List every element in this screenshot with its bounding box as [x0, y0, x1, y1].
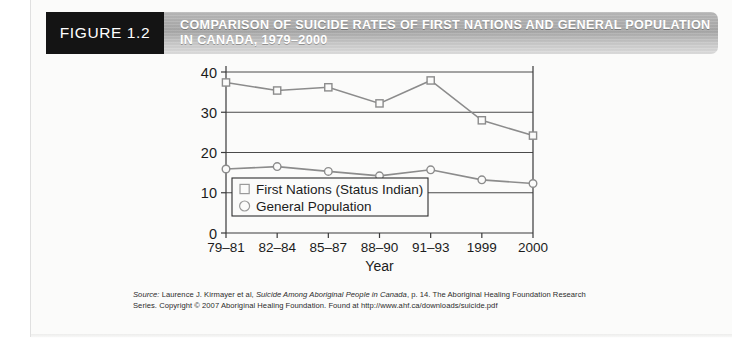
x-tick-label-5: 1999 — [467, 240, 497, 255]
series-0 — [222, 77, 536, 139]
y-tick-label-30: 30 — [201, 105, 217, 121]
marker-square-0-4 — [427, 77, 434, 84]
marker-square-0-6 — [529, 132, 536, 139]
y-tick-label-20: 20 — [201, 145, 217, 161]
source-note: Source: Laurence J. Kirmayer et al, Suic… — [133, 289, 603, 312]
source-text-before: Laurence J. Kirmayer et al, — [160, 290, 256, 299]
figure-title-line-1: COMPARISON OF SUICIDE RATES OF FIRST NAT… — [180, 18, 710, 34]
figure-title-block: COMPARISON OF SUICIDE RATES OF FIRST NAT… — [164, 12, 718, 54]
x-tick-label-3: 88–90 — [361, 240, 399, 255]
page-bottom-edge-shadow — [31, 334, 732, 338]
chart-labels: 01020304079–8182–8485–8788–9091–93199920… — [201, 65, 548, 275]
series-line-0 — [226, 80, 533, 135]
marker-square-0-0 — [222, 79, 229, 86]
chart-series-group — [222, 77, 537, 187]
chart-figure: 01020304079–8182–8485–8788–9091–93199920… — [150, 58, 610, 288]
y-tick-label-40: 40 — [201, 65, 217, 81]
marker-circle-1-5 — [478, 176, 486, 184]
marker-circle-1-0 — [222, 165, 230, 173]
marker-square-0-3 — [376, 100, 383, 107]
source-label: Source: — [133, 290, 160, 299]
marker-circle-1-6 — [529, 180, 537, 188]
legend-label-1: General Population — [256, 199, 372, 214]
figure-title-line-2: IN CANADA, 1979–2000 — [180, 33, 710, 49]
marker-square-0-5 — [478, 117, 485, 124]
x-tick-label-2: 85–87 — [310, 240, 348, 255]
legend-marker-square — [240, 184, 249, 193]
marker-square-0-2 — [325, 84, 332, 91]
y-tick-label-10: 10 — [201, 185, 217, 201]
legend-label-0: First Nations (Status Indian) — [256, 182, 423, 197]
x-tick-label-1: 82–84 — [258, 240, 296, 255]
source-italic-title: Suicide Among Aboriginal People in Canad… — [256, 290, 407, 299]
scanned-page: FIGURE 1.2 COMPARISON OF SUICIDE RATES O… — [0, 0, 732, 353]
marker-circle-1-4 — [427, 166, 435, 174]
x-tick-label-6: 2000 — [518, 240, 548, 255]
x-axis-title: Year — [365, 258, 394, 274]
line-chart: 01020304079–8182–8485–8788–9091–93199920… — [150, 58, 610, 288]
figure-header-bar: FIGURE 1.2 COMPARISON OF SUICIDE RATES O… — [46, 12, 718, 54]
marker-circle-1-1 — [273, 163, 281, 171]
figure-number-label: FIGURE 1.2 — [46, 12, 164, 54]
marker-square-0-1 — [274, 87, 281, 94]
legend-marker-circle — [240, 201, 250, 211]
x-tick-label-4: 91–93 — [412, 240, 450, 255]
x-tick-label-0: 79–81 — [207, 240, 245, 255]
chart-legend: First Nations (Status Indian)General Pop… — [232, 178, 428, 216]
marker-circle-1-2 — [325, 168, 333, 176]
